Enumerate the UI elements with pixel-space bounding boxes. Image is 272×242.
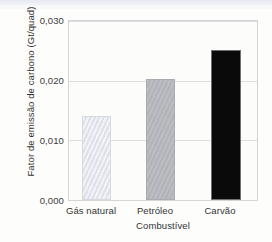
bar-gas-natural bbox=[82, 116, 111, 200]
x-axis-title: Combustível bbox=[68, 220, 258, 231]
x-tick-label-carvao: Carvão bbox=[180, 205, 260, 216]
gridline-0030 bbox=[69, 21, 257, 22]
bar-petroleo bbox=[146, 79, 175, 200]
scan-top-strip bbox=[0, 0, 272, 7]
scan-top-strip-edge bbox=[0, 7, 272, 9]
y-tick-label-0020: 0,020 bbox=[38, 75, 64, 86]
y-tick-label-0010: 0,010 bbox=[38, 135, 64, 146]
bar-carvao bbox=[211, 50, 241, 200]
plot-area bbox=[68, 20, 258, 201]
y-axis-title: Fator de emissão de carbono (Gt/quad) bbox=[25, 0, 36, 190]
page-background: Fator de emissão de carbono (Gt/quad) 0,… bbox=[0, 0, 272, 242]
y-tick-label-0030: 0,030 bbox=[38, 15, 64, 26]
